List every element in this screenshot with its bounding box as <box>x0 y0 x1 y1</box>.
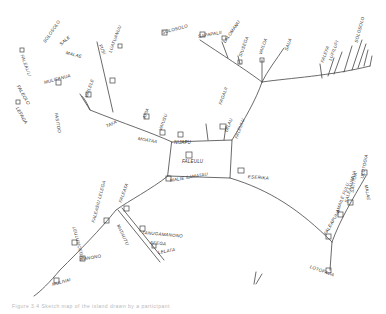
road-northwest <box>82 96 172 142</box>
figure-caption: Figure 3.4 Sketch map of the island draw… <box>12 303 170 309</box>
road-southeast <box>230 178 332 242</box>
center-block-inner-label: FALEULU <box>182 159 203 164</box>
center-block-top-label: NIJAFU <box>174 140 191 145</box>
road-northeast <box>232 66 370 140</box>
